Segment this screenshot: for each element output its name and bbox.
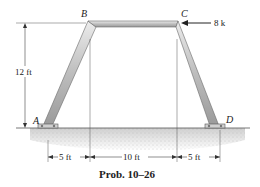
member-bc [88,21,178,27]
member-cd [176,21,219,126]
figure-caption: Prob. 10–26 [99,168,156,180]
label-b: B [81,8,87,19]
label-a: A [32,115,40,126]
support-a [38,124,58,128]
height-label: 12 ft [15,67,32,77]
label-c: C [181,8,188,19]
left-span-label: 5 ft [59,152,72,162]
load-label: 8 k [214,18,226,28]
middle-span-label: 10 ft [123,152,140,162]
label-d: D [225,114,234,125]
ground [16,128,250,150]
frame-diagram: A B C D 8 k 12 ft [0,0,260,187]
support-d [205,124,225,128]
arrowhead-icon [181,20,188,26]
member-ab [43,21,96,126]
right-span-label: 5 ft [188,152,201,162]
load-arrow [181,20,211,26]
frame [43,21,219,126]
